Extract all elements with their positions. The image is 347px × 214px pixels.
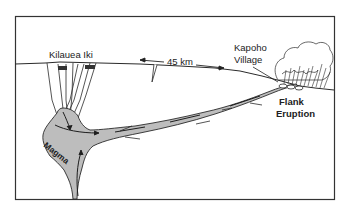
vent-plug-left xyxy=(58,66,67,70)
surface-fissure xyxy=(152,64,157,82)
label-distance: 45 km xyxy=(167,56,193,67)
label-flank: Flank xyxy=(279,96,304,107)
magma-reservoir xyxy=(43,84,298,199)
vent-plug-right xyxy=(85,65,95,69)
label-village: Village xyxy=(234,54,262,65)
label-kapoho: Kapoho xyxy=(234,42,267,53)
label-eruption: Eruption xyxy=(276,108,315,119)
volcano-cross-section-diagram xyxy=(0,0,347,214)
label-kilauea-iki: Kilauea Iki xyxy=(49,49,93,60)
